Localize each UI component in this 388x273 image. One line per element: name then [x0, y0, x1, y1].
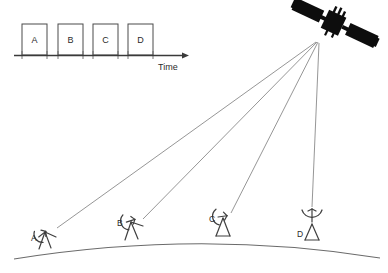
beam-group [57, 42, 319, 228]
slot-box-b: B [58, 24, 83, 55]
ground-station-c: C [209, 208, 230, 236]
ground-station-d: D [297, 209, 322, 240]
beam-to-station-d [312, 43, 319, 207]
ground-station-label-d: D [297, 229, 303, 239]
time-axis-label: Time [158, 62, 178, 72]
slot-label-b: B [67, 35, 73, 45]
ground-station-b: B [117, 212, 143, 240]
slot-label-d: D [137, 35, 144, 45]
satellite [286, 0, 385, 57]
diagram-canvas: A B C D Time [0, 0, 388, 273]
beam-to-station-c [231, 42, 318, 213]
beam-to-station-a [57, 42, 316, 228]
ground-station-a: A [31, 226, 56, 249]
slot-label-a: A [31, 35, 37, 45]
timeline-group: A B C D Time [14, 24, 189, 72]
slot-box-c: C [93, 24, 118, 55]
slot-box-d: D [128, 24, 153, 55]
ground-station-label-c: C [209, 214, 215, 224]
ground-station-label-a: A [31, 233, 37, 243]
slot-label-c: C [102, 35, 109, 45]
ground-station-label-b: B [117, 218, 123, 228]
slot-box-a: A [22, 24, 47, 55]
earth-surface [14, 244, 380, 259]
